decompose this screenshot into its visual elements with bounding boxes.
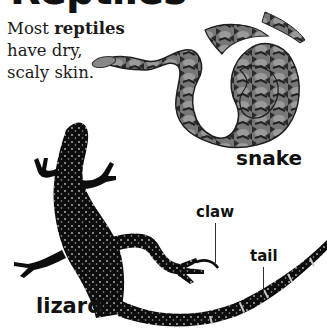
book-page: Reptiles Most reptiles have dry, scaly s… [0,0,327,329]
tail-leader-line [263,267,264,295]
lizard-label: lizard [36,294,102,318]
claw-label: claw [196,203,234,221]
snake-label: snake [236,146,302,170]
claw-leader-line [215,223,216,263]
tail-label: tail [250,247,278,265]
